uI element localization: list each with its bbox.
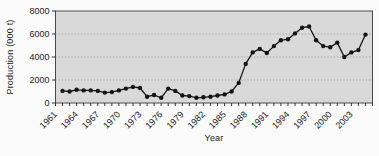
- data-point: [201, 95, 205, 99]
- x-tick-label: 2003: [334, 109, 355, 130]
- data-point: [265, 51, 269, 55]
- data-point: [159, 96, 163, 100]
- data-point: [363, 32, 367, 36]
- chart-canvas: 0200040006000800019611964196719701973197…: [0, 0, 379, 156]
- x-tick-label: 1976: [143, 109, 164, 130]
- x-tick-label: 1961: [38, 109, 59, 130]
- data-point: [342, 55, 346, 59]
- data-point: [222, 92, 226, 96]
- x-tick-label: 2000: [312, 109, 333, 130]
- data-point: [117, 88, 121, 92]
- y-tick-label: 4000: [29, 52, 49, 62]
- data-point: [194, 96, 198, 100]
- data-point: [328, 45, 332, 49]
- x-tick-label: 1964: [59, 109, 80, 130]
- data-point: [138, 86, 142, 90]
- data-point: [321, 44, 325, 48]
- data-point: [251, 50, 255, 54]
- x-tick-label: 1991: [249, 109, 270, 130]
- y-axis-title: Production (000 t): [5, 19, 15, 94]
- x-tick-label: 1982: [186, 109, 207, 130]
- data-point: [96, 89, 100, 93]
- data-point: [215, 93, 219, 97]
- production-line-chart: 0200040006000800019611964196719701973197…: [0, 0, 379, 156]
- data-point: [279, 38, 283, 42]
- data-point: [60, 89, 64, 93]
- data-point: [314, 38, 318, 42]
- data-point: [82, 88, 86, 92]
- x-tick-label: 1967: [80, 109, 101, 130]
- data-point: [180, 93, 184, 97]
- data-point: [258, 47, 262, 51]
- data-point: [152, 93, 156, 97]
- x-tick-label: 1997: [291, 109, 312, 130]
- data-point: [356, 48, 360, 52]
- data-point: [229, 89, 233, 93]
- data-point: [67, 89, 71, 93]
- data-point: [74, 88, 78, 92]
- data-point: [187, 94, 191, 98]
- data-point: [166, 86, 170, 90]
- data-point: [131, 85, 135, 89]
- data-point: [237, 81, 241, 85]
- data-point: [89, 88, 93, 92]
- x-tick-label: 1988: [228, 109, 249, 130]
- x-tick-label: 1979: [164, 109, 185, 130]
- data-point: [103, 90, 107, 94]
- y-tick-label: 6000: [29, 29, 49, 39]
- data-point: [208, 95, 212, 99]
- data-point: [110, 90, 114, 94]
- data-point: [124, 86, 128, 90]
- y-tick-label: 8000: [29, 6, 49, 16]
- x-tick-label: 1985: [207, 109, 228, 130]
- data-point: [349, 50, 353, 54]
- x-tick-label: 1973: [122, 109, 143, 130]
- x-axis-title: Year: [205, 133, 224, 143]
- data-point: [272, 44, 276, 48]
- data-point: [335, 40, 339, 44]
- data-point: [300, 26, 304, 30]
- data-point: [173, 89, 177, 93]
- data-point: [307, 24, 311, 28]
- data-point: [293, 31, 297, 35]
- data-point: [145, 95, 149, 99]
- y-tick-label: 0: [44, 98, 49, 108]
- data-point: [286, 37, 290, 41]
- y-tick-label: 2000: [29, 75, 49, 85]
- x-tick-label: 1970: [101, 109, 122, 130]
- data-point: [244, 62, 248, 66]
- x-tick-label: 1994: [270, 109, 291, 130]
